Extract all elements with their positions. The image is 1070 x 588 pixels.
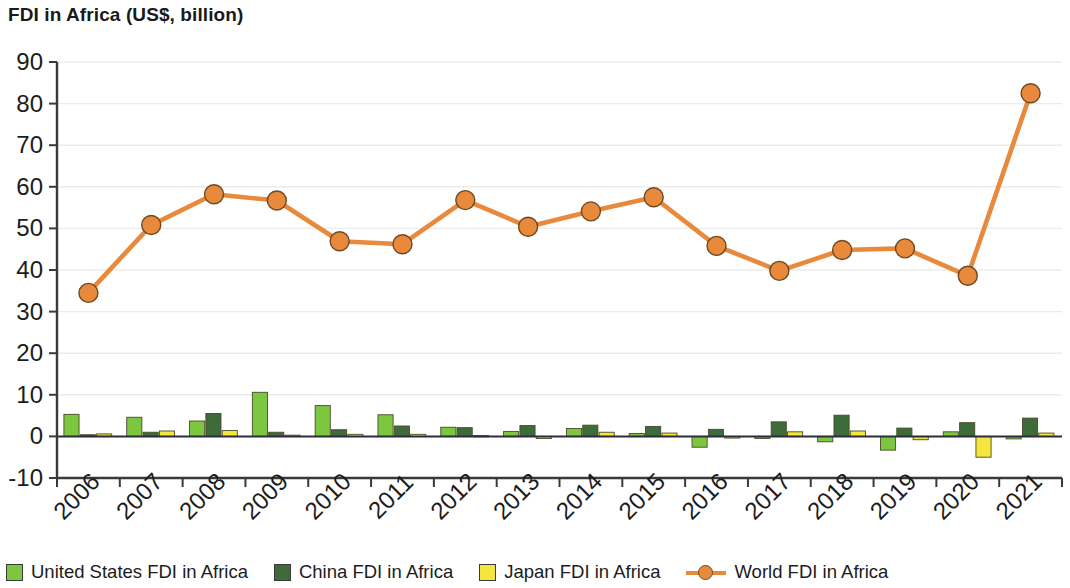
x-axis-tick-labels: 2006200720082009201020112012201320142015… xyxy=(48,468,1047,525)
bar xyxy=(566,428,581,436)
bar xyxy=(692,436,707,447)
bar xyxy=(252,392,267,436)
bar xyxy=(190,421,205,436)
bar xyxy=(394,426,409,436)
chart-plot-area: 9080706050403020100-10 20062007200820092… xyxy=(0,0,1070,556)
legend-swatch-icon xyxy=(274,564,291,581)
gridlines xyxy=(57,62,1062,395)
y-axis xyxy=(49,62,57,478)
world-line-marker xyxy=(644,188,663,207)
world-line-series xyxy=(88,93,1030,293)
x-axis-tick-label: 2008 xyxy=(174,468,231,525)
x-axis-tick-label: 2019 xyxy=(865,468,922,525)
bar xyxy=(520,426,535,437)
legend-line-marker-icon xyxy=(686,564,726,581)
legend-label: World FDI in Africa xyxy=(734,561,888,583)
world-line-marker xyxy=(770,261,789,280)
world-line-marker xyxy=(330,232,349,251)
world-line-marker xyxy=(456,191,475,210)
bar xyxy=(646,426,661,436)
world-line-marker xyxy=(267,191,286,210)
bar xyxy=(441,427,456,436)
world-line-marker xyxy=(1021,84,1040,103)
chart-legend: United States FDI in AfricaChina FDI in … xyxy=(6,558,1066,586)
legend-item[interactable]: United States FDI in Africa xyxy=(6,561,248,583)
bar xyxy=(976,436,991,457)
bar xyxy=(457,428,472,437)
world-line-marker xyxy=(958,266,977,285)
x-axis-tick-label: 2020 xyxy=(927,468,984,525)
world-line-path xyxy=(88,93,1030,293)
world-line-marker xyxy=(895,239,914,258)
bar xyxy=(880,436,895,450)
world-line-marker xyxy=(205,185,224,204)
world-line-marker xyxy=(79,283,98,302)
bar xyxy=(315,406,330,437)
world-line-marker xyxy=(707,236,726,255)
y-axis-tick-label: 40 xyxy=(16,256,43,283)
y-axis-tick-label: 60 xyxy=(16,173,43,200)
world-line-marker xyxy=(833,241,852,260)
x-axis-tick-label: 2007 xyxy=(111,468,168,525)
y-axis-tick-label: 70 xyxy=(16,131,43,158)
bar xyxy=(1022,418,1037,436)
bar xyxy=(64,414,79,436)
bar xyxy=(583,425,598,436)
x-axis-tick-label: 2013 xyxy=(488,468,545,525)
x-axis-tick-label: 2015 xyxy=(613,468,670,525)
y-axis-tick-label: 0 xyxy=(30,422,43,449)
y-axis-tick-label: 30 xyxy=(16,298,43,325)
fdi-chart: FDI in Africa (US$, billion) 90807060504… xyxy=(0,0,1070,588)
bar xyxy=(834,415,849,436)
bar xyxy=(378,415,393,437)
y-axis-tick-label: 80 xyxy=(16,90,43,117)
bar xyxy=(960,423,975,437)
bar xyxy=(127,417,142,436)
x-axis-tick-label: 2021 xyxy=(990,468,1047,525)
world-line-marker xyxy=(393,235,412,254)
x-axis-tick-label: 2014 xyxy=(550,468,607,525)
legend-label: United States FDI in Africa xyxy=(31,561,248,583)
y-axis-tick-label: 90 xyxy=(16,48,43,75)
y-axis-tick-label: -10 xyxy=(8,464,43,491)
bars-layer xyxy=(64,392,1054,457)
legend-item[interactable]: Japan FDI in Africa xyxy=(479,561,660,583)
world-line-marker xyxy=(142,216,161,235)
x-axis-tick-label: 2017 xyxy=(739,468,796,525)
bar xyxy=(771,422,786,437)
x-axis-tick-label: 2018 xyxy=(802,468,859,525)
world-line-marker xyxy=(519,217,538,236)
legend-label: China FDI in Africa xyxy=(299,561,453,583)
y-axis-tick-label: 10 xyxy=(16,381,43,408)
bar xyxy=(206,414,221,437)
world-line-marker xyxy=(581,202,600,221)
bar xyxy=(708,429,723,436)
legend-item[interactable]: China FDI in Africa xyxy=(274,561,453,583)
bar xyxy=(897,428,912,436)
x-axis-tick-label: 2012 xyxy=(425,468,482,525)
legend-item[interactable]: World FDI in Africa xyxy=(686,561,888,583)
x-axis-tick-label: 2011 xyxy=(363,468,419,524)
y-axis-tick-label: 20 xyxy=(16,339,43,366)
y-axis-tick-labels: 9080706050403020100-10 xyxy=(8,48,43,491)
x-axis-tick-label: 2009 xyxy=(236,468,293,525)
y-axis-tick-label: 50 xyxy=(16,214,43,241)
legend-label: Japan FDI in Africa xyxy=(504,561,660,583)
x-axis-tick-label: 2010 xyxy=(299,468,356,525)
legend-swatch-icon xyxy=(6,564,23,581)
x-axis-tick-label: 2016 xyxy=(676,468,733,525)
legend-swatch-icon xyxy=(479,564,496,581)
